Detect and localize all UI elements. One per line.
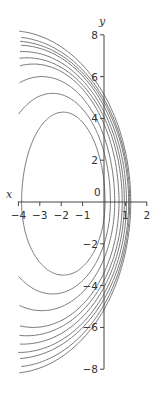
x-tick-label: 1	[122, 209, 129, 221]
y-tick-label: 4	[91, 112, 98, 124]
curve-10	[22, 112, 106, 275]
x-tick-label: −1	[75, 209, 90, 221]
chart: −4−3−2−112 −8−6−4−22468 x y 0	[0, 0, 162, 397]
y-tick-label: −4	[83, 280, 99, 292]
x-tick-label: −4	[11, 209, 27, 221]
origin-label: 0	[94, 186, 101, 198]
y-tick-label: −2	[83, 238, 98, 250]
x-axis-label: x	[6, 188, 13, 201]
curve-3	[20, 41, 129, 358]
y-tick-label: −8	[83, 363, 98, 375]
x-tick-label: 2	[143, 209, 150, 221]
y-tick-label: −6	[83, 321, 99, 333]
y-tick-label: 2	[91, 154, 98, 166]
y-tick-label: 6	[91, 71, 98, 83]
y-axis-label: y	[98, 15, 106, 28]
y-tick-label: 8	[91, 29, 98, 41]
x-tick-label: −3	[32, 209, 47, 221]
x-tick-label: −2	[53, 209, 68, 221]
